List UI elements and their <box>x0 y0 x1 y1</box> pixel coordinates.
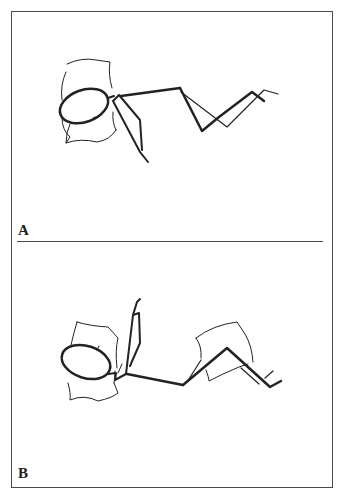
panel-label-a: A <box>18 222 29 239</box>
head-icon <box>57 339 114 385</box>
head-icon <box>55 82 113 129</box>
arm-icon <box>113 95 148 162</box>
figure-drawing <box>0 0 339 494</box>
panel-label-b: B <box>18 465 28 482</box>
panel-a-figure <box>55 59 278 162</box>
leg-1 <box>183 348 281 387</box>
panel-b-figure <box>57 299 281 401</box>
leg-1 <box>180 88 264 131</box>
torso-line <box>121 88 180 96</box>
torso-line <box>127 374 183 385</box>
raised-arm-icon <box>126 299 140 374</box>
